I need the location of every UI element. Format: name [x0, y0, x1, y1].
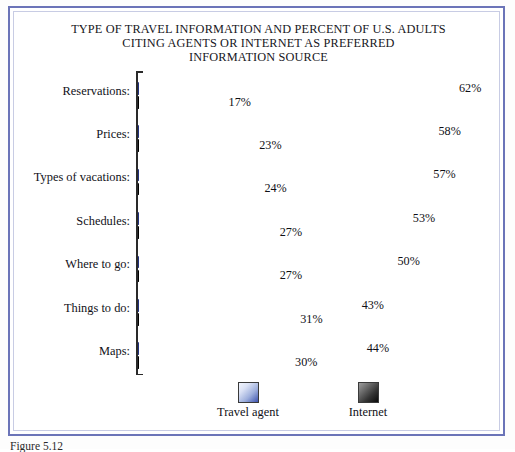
bar-value-label: 62% — [459, 82, 481, 96]
chart-legend: Travel agent Internet — [28, 382, 488, 432]
bar-value-label: 53% — [413, 212, 435, 226]
legend-swatch-internet — [358, 382, 379, 403]
bar-value-label: 58% — [438, 125, 460, 139]
bar-value-label: 30% — [295, 356, 317, 370]
chart-title: TYPE OF TRAVEL INFORMATION AND PERCENT O… — [36, 22, 481, 65]
figure-frame: TYPE OF TRAVEL INFORMATION AND PERCENT O… — [8, 6, 505, 436]
bar-net: 31% — [138, 313, 297, 326]
bar-net: 23% — [138, 139, 256, 152]
bar-group: Schedules:53%27% — [28, 207, 488, 250]
bar-value-label: 17% — [229, 96, 251, 110]
bar-fill-net — [138, 270, 139, 283]
legend-item-travel-agent: Travel agent — [206, 382, 290, 420]
category-label: Where to go: — [28, 257, 130, 272]
chart-title-line-3: INFORMATION SOURCE — [36, 50, 481, 64]
figure-caption: Figure 5.12 — [10, 440, 63, 452]
category-label: Maps: — [28, 344, 130, 359]
bar-agent: 62% — [138, 82, 455, 95]
legend-item-internet: Internet — [326, 382, 410, 420]
bar-group: Where to go:50%27% — [28, 250, 488, 293]
category-label: Reservations: — [28, 84, 130, 99]
bar-value-label: 27% — [280, 226, 302, 240]
category-label: Prices: — [28, 127, 130, 142]
bar-value-label: 23% — [259, 139, 281, 153]
bar-net: 17% — [138, 96, 225, 109]
bar-fill-agent — [138, 169, 139, 182]
bar-value-label: 44% — [367, 342, 389, 356]
bar-fill-net — [138, 96, 139, 109]
bar-value-label: 24% — [264, 182, 286, 196]
bar-agent: 50% — [138, 256, 394, 269]
bar-net: 24% — [138, 183, 261, 196]
bar-agent: 57% — [138, 169, 430, 182]
bar-fill-agent — [138, 299, 139, 312]
bar-group: Types of vacations:57%24% — [28, 163, 488, 206]
bar-group: Maps:44%30% — [28, 337, 488, 380]
bar-agent: 58% — [138, 125, 435, 138]
bar-fill-agent — [138, 125, 139, 138]
bar-value-label: 50% — [398, 255, 420, 269]
category-label: Schedules: — [28, 214, 130, 229]
bar-value-label: 57% — [433, 168, 455, 182]
plot-area: Reservations:62%17%Prices:58%23%Types of… — [28, 71, 488, 378]
legend-swatch-travel-agent — [238, 382, 259, 403]
bar-fill-net — [138, 139, 139, 152]
legend-label-travel-agent: Travel agent — [206, 405, 290, 420]
bar-value-label: 31% — [300, 313, 322, 327]
bar-value-label: 43% — [362, 299, 384, 313]
bar-agent: 53% — [138, 212, 409, 225]
bar-value-label: 27% — [280, 269, 302, 283]
bar-fill-agent — [138, 82, 139, 95]
bar-fill-agent — [138, 342, 139, 355]
bar-agent: 44% — [138, 342, 363, 355]
bar-net: 27% — [138, 270, 276, 283]
category-label: Things to do: — [28, 301, 130, 316]
bar-fill-agent — [138, 212, 139, 225]
chart-title-line-1: TYPE OF TRAVEL INFORMATION AND PERCENT O… — [36, 22, 481, 36]
bar-net: 27% — [138, 226, 276, 239]
bar-group: Prices:58%23% — [28, 120, 488, 163]
bar-group: Reservations:62%17% — [28, 77, 488, 120]
legend-label-internet: Internet — [326, 405, 410, 420]
bar-fill-net — [138, 313, 139, 326]
bar-group: Things to do:43%31% — [28, 294, 488, 337]
axis-cap-top — [136, 71, 143, 73]
bar-fill-agent — [138, 256, 139, 269]
bar-fill-net — [138, 356, 139, 369]
bar-fill-net — [138, 226, 139, 239]
category-label: Types of vacations: — [28, 170, 130, 185]
chart-title-line-2: CITING AGENTS OR INTERNET AS PREFERRED — [36, 36, 481, 50]
bar-fill-net — [138, 183, 139, 196]
bar-agent: 43% — [138, 299, 358, 312]
bar-net: 30% — [138, 356, 292, 369]
